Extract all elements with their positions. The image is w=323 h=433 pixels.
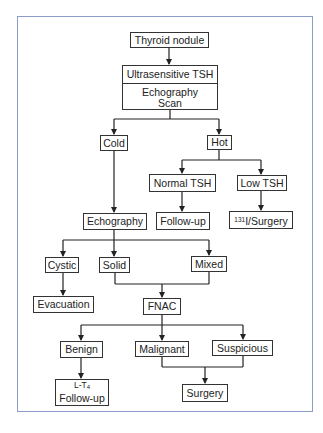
node-thyroid-nodule: Thyroid nodule (130, 32, 209, 48)
node-low-tsh: Low TSH (237, 175, 287, 191)
node-suspicious: Suspicious (212, 340, 273, 356)
node-hot: Hot (207, 135, 232, 150)
node-surgery: Surgery (182, 384, 228, 402)
node-label: Thyroid nodule (135, 34, 204, 47)
node-tsh-echography-scan: Ultrasensitive TSH Echography Scan (122, 65, 218, 110)
node-solid: Solid (99, 257, 130, 273)
node-echography-scan: Echography Scan (142, 84, 198, 109)
node-mixed: Mixed (191, 256, 227, 272)
node-follow-up: Follow-up (156, 212, 210, 230)
node-fnac: FNAC (143, 298, 181, 315)
node-cold: Cold (100, 135, 128, 151)
node-malignant: Malignant (135, 341, 189, 357)
node-ultrasensitive-tsh: Ultrasensitive TSH (123, 66, 217, 84)
node-echography: Echography (83, 213, 147, 230)
node-evacuation: Evacuation (33, 296, 94, 313)
node-lt4-follow-up: L-T4 Follow-up (55, 379, 109, 406)
node-normal-tsh: Normal TSH (149, 174, 216, 192)
node-cystic: Cystic (45, 257, 79, 273)
node-benign: Benign (60, 341, 103, 358)
node-iodine-surgery: 131I/Surgery (229, 211, 293, 229)
